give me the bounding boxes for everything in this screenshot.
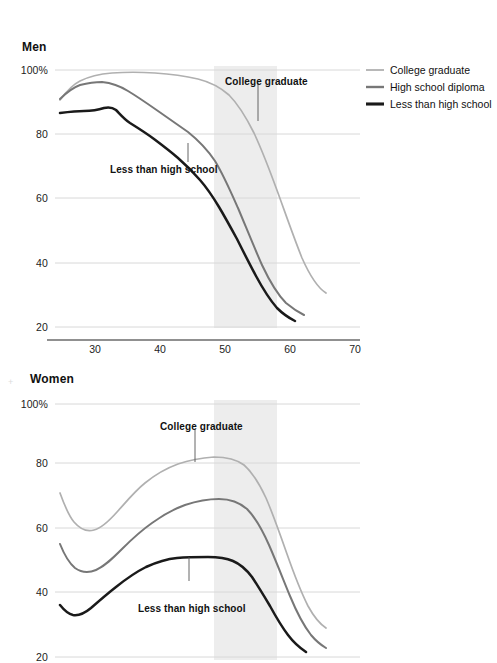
series-line-college-graduate-men xyxy=(60,72,326,293)
xtick-men-60: 60 xyxy=(278,343,302,355)
ytick-men-40: 40 xyxy=(14,257,48,269)
xtick-men-40: 40 xyxy=(148,343,172,355)
decorative-mark: + xyxy=(8,379,14,385)
legend-item-less-than-high-school[interactable]: Less than high school xyxy=(366,96,496,111)
panel-men: Men 100% 80 60 40 20 30 xyxy=(0,0,497,360)
legend-label-less-than-high-school: Less than high school xyxy=(390,98,492,110)
chart-men xyxy=(0,0,380,360)
annotation-college-graduate-women: College graduate xyxy=(160,421,243,432)
ytick-women-40: 40 xyxy=(14,586,48,598)
panel-women: 100% 80 60 40 20 College graduate Less t… xyxy=(0,360,497,660)
chart-women xyxy=(0,360,380,660)
legend: College graduate High school diploma Les… xyxy=(366,62,496,113)
ytick-men-80: 80 xyxy=(14,128,48,140)
annotation-less-than-high-school-women: Less than high school xyxy=(138,603,246,614)
shaded-band-women xyxy=(214,400,277,660)
shaded-band-men xyxy=(214,66,277,328)
xtick-men-30: 30 xyxy=(83,343,107,355)
legend-item-college-graduate[interactable]: College graduate xyxy=(366,62,496,77)
legend-label-high-school-diploma: High school diploma xyxy=(390,81,485,93)
ytick-women-100: 100% xyxy=(14,398,48,410)
legend-swatch-college-graduate xyxy=(366,64,384,76)
annotation-less-than-high-school-men: Less than high school xyxy=(110,164,218,175)
ytick-men-100: 100% xyxy=(14,64,48,76)
chart-women-svg xyxy=(0,360,380,660)
series-line-high-school-diploma-women xyxy=(60,499,326,648)
ytick-women-60: 60 xyxy=(14,522,48,534)
ytick-women-80: 80 xyxy=(14,457,48,469)
chart-men-svg xyxy=(0,0,380,360)
legend-swatch-less-than-high-school xyxy=(366,98,384,110)
xtick-men-50: 50 xyxy=(213,343,237,355)
annotation-college-graduate-men: College graduate xyxy=(225,76,308,87)
ytick-men-20: 20 xyxy=(14,321,48,333)
xtick-men-70: 70 xyxy=(343,343,367,355)
panel-title-women: Women xyxy=(30,372,74,386)
legend-item-high-school-diploma[interactable]: High school diploma xyxy=(366,79,496,94)
legend-label-college-graduate: College graduate xyxy=(390,64,470,76)
ytick-men-60: 60 xyxy=(14,192,48,204)
legend-swatch-high-school-diploma xyxy=(366,81,384,93)
ytick-women-20: 20 xyxy=(14,651,48,663)
